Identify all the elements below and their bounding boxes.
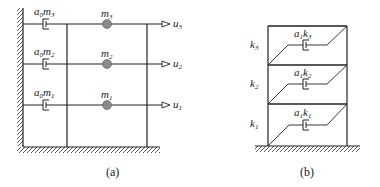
floor-1: a0m1 m1 u1 [23,86,182,112]
arrow-icon [162,102,170,108]
stiffness-label: k1 [250,117,258,131]
mass-label: m1 [101,88,112,102]
story-3: a1k3 k3 [250,26,347,65]
brace-left [268,125,303,146]
brace-left [268,84,303,104]
story-2: a1k2 k2 [250,65,347,104]
caption-a: (a) [106,165,119,179]
damper-label: a1k3 [294,27,312,41]
arrow-icon [162,21,170,27]
brace-right [306,104,347,125]
story-1: a1k1 k1 [250,104,347,146]
ground-hatch-b [255,146,360,152]
floor-3: a0m3 m3 u3 [23,5,183,31]
figure-canvas: a0m3 m3 u3 a0m2 m2 u2 a0m1 m1 u1 [0,0,380,187]
brace-right [306,26,347,45]
damper-label: a0m3 [34,5,55,19]
damper-label: a1k2 [294,66,312,80]
figure-b: a1k3 k3 a1k2 k2 a1k1 k1 (b) [250,26,360,179]
damper-label: a0m1 [34,86,54,100]
displacement-label: u1 [173,98,182,112]
caption-b: (b) [300,165,314,179]
displacement-label: u3 [173,17,183,31]
floor-2: a0m2 m2 u2 [23,45,183,71]
wall-hatch [17,8,23,146]
mass-label: m2 [101,47,113,61]
brace-left [268,45,303,65]
damper-label: a0m2 [34,45,55,59]
stiffness-label: k2 [250,77,259,91]
displacement-label: u2 [173,57,183,71]
ground-hatch-a [17,147,160,153]
arrow-icon [162,61,170,67]
figure-a: a0m3 m3 u3 a0m2 m2 u2 a0m1 m1 u1 [17,5,183,179]
damper-label: a1k1 [294,106,311,120]
brace-right [306,65,347,84]
stiffness-label: k3 [250,38,259,52]
mass-label: m3 [101,7,113,21]
